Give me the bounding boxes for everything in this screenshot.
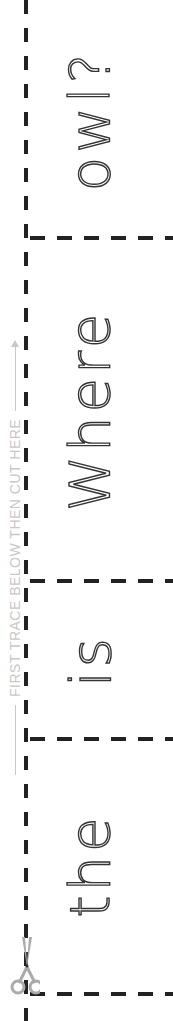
trace-text: the	[58, 813, 123, 917]
cell-divider-4	[30, 992, 173, 996]
trace-word-where: Where	[45, 245, 135, 575]
trace-word-owl: owl?	[45, 10, 135, 230]
trace-text: owl?	[58, 49, 123, 190]
cell-divider-3	[30, 737, 173, 741]
cut-guide: FIRST TRACE BELOW THEN CUT HERE	[5, 355, 25, 775]
guide-arrow-icon	[15, 341, 16, 411]
trace-text: Where	[58, 309, 123, 511]
scissors-icon	[10, 935, 40, 995]
trace-text: is	[57, 634, 122, 687]
guide-text: FIRST TRACE BELOW THEN CUT HERE	[7, 419, 23, 697]
cell-divider-1	[30, 236, 173, 240]
trace-word-is: is	[45, 585, 135, 735]
cell-divider-2	[30, 579, 173, 583]
trace-word-the: the	[45, 745, 135, 985]
guide-line-left	[15, 705, 16, 775]
